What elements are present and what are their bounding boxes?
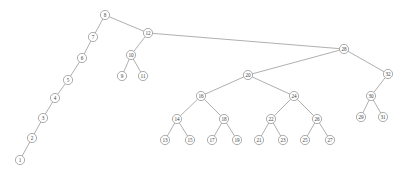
tree-edge (124, 59, 129, 72)
tree-node-label: 26 (314, 116, 320, 122)
tree-edge (58, 84, 66, 95)
tree-node-label: 17 (209, 137, 215, 143)
tree-node-label: 21 (256, 137, 262, 143)
tree-edge (319, 123, 327, 136)
tree-edge (180, 99, 197, 116)
tree-node[interactable]: 17 (207, 135, 216, 144)
tree-node[interactable]: 26 (312, 114, 321, 123)
tree-node-label: 28 (341, 46, 347, 52)
tree-node[interactable]: 4 (50, 93, 59, 102)
tree-edge (205, 77, 244, 94)
tree-node-label: 14 (174, 116, 180, 122)
tree-diagram-svg: 8765432112109112820161413151817192422212… (0, 0, 407, 176)
tree-edge (167, 123, 174, 136)
tree-edge (274, 99, 291, 116)
tree-node[interactable]: 11 (138, 71, 147, 80)
tree-node-label: 7 (92, 34, 95, 40)
tree-node[interactable]: 12 (143, 28, 152, 37)
tree-edge (204, 99, 221, 116)
tree-node-label: 8 (104, 12, 107, 18)
tree-node-label: 20 (245, 72, 251, 78)
tree-edge (273, 123, 280, 136)
tree-edge (226, 123, 234, 136)
tree-node[interactable]: 22 (266, 114, 275, 123)
tree-node-label: 5 (67, 77, 70, 83)
tree-node-label: 1 (19, 157, 22, 163)
tree-edge (252, 50, 339, 74)
tree-node-label: 12 (145, 30, 151, 36)
tree-edge (374, 78, 385, 93)
tree-node-label: 3 (42, 115, 45, 121)
tree-edge (84, 41, 91, 54)
tree-edge (214, 123, 221, 136)
tree-node[interactable]: 18 (219, 114, 228, 123)
tree-edge (348, 51, 384, 71)
tree-edge (261, 123, 268, 136)
tree-edge (373, 100, 380, 113)
tree-node-label: 24 (291, 93, 297, 99)
tree-node[interactable]: 27 (325, 135, 334, 144)
tree-node[interactable]: 28 (339, 44, 348, 53)
tree-node-label: 27 (327, 137, 333, 143)
tree-edge (109, 17, 144, 31)
tree-node[interactable]: 8 (100, 10, 109, 19)
tree-node[interactable]: 25 (300, 135, 309, 144)
tree-node[interactable]: 6 (77, 53, 86, 62)
tree-edge (297, 99, 314, 116)
tree-node[interactable]: 24 (289, 91, 298, 100)
tree-node[interactable]: 16 (196, 91, 205, 100)
tree-node-label: 30 (368, 93, 374, 99)
tree-node-label: 23 (280, 137, 286, 143)
tree-node[interactable]: 2 (27, 133, 36, 142)
tree-node-label: 16 (198, 93, 204, 99)
tree-node[interactable]: 23 (278, 135, 287, 144)
tree-edge (153, 33, 340, 48)
tree-node[interactable]: 13 (160, 135, 169, 144)
tree-edge (95, 19, 103, 33)
tree-edge (45, 102, 52, 114)
tree-node-label: 10 (128, 52, 134, 58)
tree-node-label: 32 (385, 71, 391, 77)
tree-edge (22, 142, 30, 156)
tree-node[interactable]: 19 (232, 135, 241, 144)
tree-edge (307, 123, 314, 136)
tree-node-label: 19 (234, 137, 240, 143)
tree-node[interactable]: 5 (63, 75, 72, 84)
tree-node-label: 2 (31, 135, 34, 141)
tree-node-label: 25 (302, 137, 308, 143)
tree-node-label: 4 (54, 95, 57, 101)
tree-edge (363, 100, 369, 113)
tree-node[interactable]: 21 (254, 135, 263, 144)
tree-edge (34, 122, 41, 134)
tree-node-label: 6 (81, 55, 84, 61)
tree-node-label: 31 (380, 114, 386, 120)
tree-node[interactable]: 3 (38, 113, 47, 122)
tree-node[interactable]: 29 (356, 112, 365, 121)
tree-diagram-canvas: 8765432112109112820161413151817192422212… (0, 0, 407, 176)
tree-node-label: 22 (268, 116, 274, 122)
tree-node[interactable]: 1 (15, 155, 24, 164)
tree-node[interactable]: 9 (117, 71, 126, 80)
tree-node-label: 9 (121, 73, 124, 79)
tree-node[interactable]: 20 (243, 70, 252, 79)
tree-node[interactable]: 15 (185, 135, 194, 144)
tree-node[interactable]: 10 (126, 50, 135, 59)
tree-node[interactable]: 31 (378, 112, 387, 121)
tree-node[interactable]: 30 (366, 91, 375, 100)
tree-node-label: 11 (141, 73, 146, 79)
tree-node[interactable]: 7 (88, 32, 97, 41)
tree-edge (133, 59, 140, 72)
tree-edge (252, 77, 290, 94)
tree-node-label: 18 (221, 116, 227, 122)
tree-edge (179, 123, 187, 136)
edge-layer (22, 17, 385, 156)
tree-edge (70, 62, 79, 76)
tree-node[interactable]: 14 (172, 114, 181, 123)
tree-edge (134, 37, 145, 52)
tree-node-label: 15 (187, 137, 193, 143)
tree-node-label: 13 (162, 137, 168, 143)
node-layer: 8765432112109112820161413151817192422212… (15, 10, 392, 164)
tree-node[interactable]: 32 (383, 69, 392, 78)
tree-node-label: 29 (358, 114, 364, 120)
